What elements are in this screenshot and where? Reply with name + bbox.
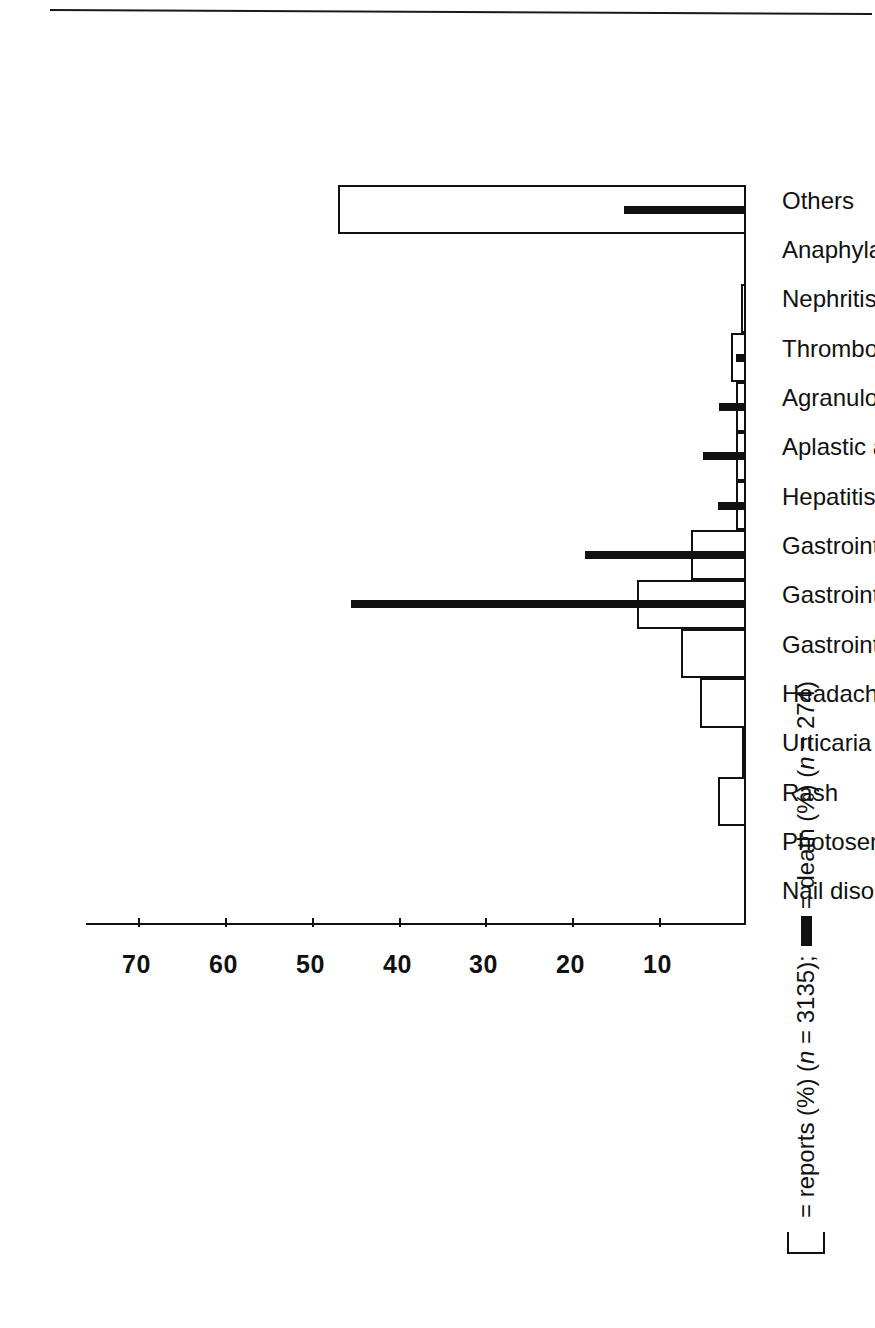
legend-death-swatch-icon <box>801 916 812 946</box>
legend-reports-swatch-icon <box>787 1232 825 1254</box>
value-tick <box>312 918 314 927</box>
legend-text: = reports (%) (n = 3135);= death (%) (n … <box>792 644 820 1264</box>
value-tick-label: 20 <box>548 950 594 979</box>
value-axis <box>86 923 746 925</box>
category-label: Hepatitis, etc <box>782 483 875 511</box>
category-label: Aplastic anaemia, etc <box>782 433 875 461</box>
category-label: Gastrointestinal perforation <box>782 532 875 560</box>
value-tick <box>138 918 140 927</box>
bar-reports <box>741 284 746 333</box>
bar-death <box>736 354 746 362</box>
value-tick-label: 10 <box>635 950 681 979</box>
plot-area: 10203040506070 <box>86 185 746 925</box>
bar-reports <box>681 629 746 678</box>
category-label: Others <box>782 187 854 215</box>
bar-reports <box>718 777 746 826</box>
page-top-rule <box>50 9 872 15</box>
bar-reports <box>742 728 746 777</box>
category-label: Nephritis, etc <box>782 285 875 313</box>
legend-reports-label: = reports (%) (n = 3135); <box>792 955 819 1218</box>
category-label: Thrombocytopenia <box>782 335 875 363</box>
chart-stage: 10203040506070 Nail disorderPhotosensiti… <box>68 145 808 1045</box>
bar-death <box>718 502 746 510</box>
value-tick <box>659 918 661 927</box>
value-tick <box>399 918 401 927</box>
bar-death <box>624 206 746 214</box>
bar-reports <box>700 678 746 727</box>
value-tick <box>572 918 574 927</box>
category-label: Agranulocytosis, etc <box>782 384 875 412</box>
value-tick-label: 40 <box>374 950 420 979</box>
category-label: Anaphylaxis <box>782 236 875 264</box>
value-tick-label: 30 <box>461 950 507 979</box>
category-label: Gastrointestinal haemorrhage <box>782 581 875 609</box>
value-tick-label: 70 <box>114 950 160 979</box>
value-tick <box>225 918 227 927</box>
value-tick-label: 60 <box>200 950 246 979</box>
bar-death <box>719 403 746 411</box>
value-tick <box>485 918 487 927</box>
bar-death <box>703 452 746 460</box>
bar-death <box>585 551 746 559</box>
legend: = reports (%) (n = 3135);= death (%) (n … <box>803 640 869 1320</box>
bar-death <box>351 600 746 608</box>
legend-death-label: = death (%) (n = 274) <box>792 681 819 909</box>
value-tick-label: 50 <box>287 950 333 979</box>
